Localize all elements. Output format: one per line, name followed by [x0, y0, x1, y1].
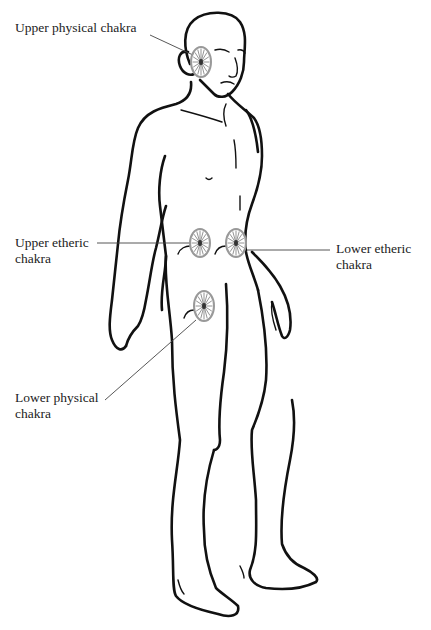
chakra-wheel-icon: [194, 291, 214, 321]
label-upper-physical-chakra: Upper physical chakra: [15, 20, 136, 36]
label-lower-physical-chakra: Lower physical chakra: [15, 390, 99, 422]
chakra-wheel-icon: [191, 47, 211, 77]
chakra-wheels: [190, 47, 246, 321]
chakra-wheel-icon: [226, 229, 246, 257]
label-lower-etheric-chakra: Lower etheric chakra: [336, 241, 411, 273]
head-outline: [179, 13, 245, 97]
body-figure: [0, 0, 431, 630]
chakra-wheel-icon: [190, 229, 210, 257]
leader-lines: [97, 35, 330, 400]
chakra-diagram: Upper physical chakra Upper etheric chak…: [0, 0, 431, 630]
label-upper-etheric-chakra: Upper etheric chakra: [15, 235, 89, 267]
leader-lower-physical: [105, 320, 196, 400]
legs-outline: [166, 256, 317, 616]
